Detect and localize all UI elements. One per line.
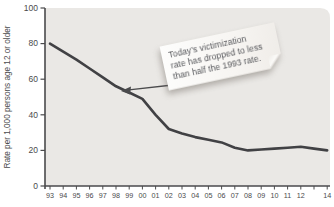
x-tick-label: 95	[72, 191, 80, 200]
x-tick-label: 93	[46, 191, 54, 200]
x-tick-label: 02	[165, 191, 173, 200]
folded-corner-icon	[268, 53, 283, 68]
x-tick-label: 01	[152, 191, 160, 200]
x-tick-label: 99	[125, 191, 133, 200]
x-tick-label: 04	[191, 191, 199, 200]
y-tick-label: 100	[24, 3, 38, 13]
x-tick-label: 14	[323, 191, 331, 200]
y-tick-label: 40	[29, 110, 39, 120]
victimization-rate-figure: 0204060801009394959697989900010203040506…	[0, 0, 334, 207]
x-tick-label: 12	[297, 191, 305, 200]
x-tick-label: 96	[86, 191, 94, 200]
y-tick-label: 0	[33, 181, 38, 191]
y-axis-title: Rate per 1,000 persons age 12 or older	[3, 25, 12, 168]
x-tick-label: 00	[138, 191, 146, 200]
x-tick-label: 94	[59, 191, 67, 200]
x-tick-label: 97	[99, 191, 107, 200]
x-tick-label: 03	[178, 191, 186, 200]
x-tick-label: 10	[270, 191, 278, 200]
victimization-line-chart: 0204060801009394959697989900010203040506…	[0, 0, 334, 207]
y-tick-label: 80	[29, 38, 39, 48]
x-tick-label: 98	[112, 191, 120, 200]
x-tick-label: 05	[204, 191, 212, 200]
x-tick-label: 06	[218, 191, 226, 200]
x-tick-label: 07	[231, 191, 239, 200]
x-tick-label: 08	[244, 191, 252, 200]
y-tick-label: 60	[29, 74, 39, 84]
plot-area-background	[45, 8, 330, 186]
x-tick-label: 09	[257, 191, 265, 200]
y-tick-label: 20	[29, 145, 39, 155]
x-tick-label: 11	[284, 191, 291, 200]
